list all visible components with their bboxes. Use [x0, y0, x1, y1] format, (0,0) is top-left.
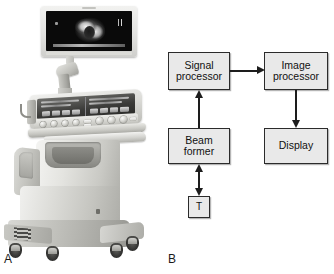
console-knob [40, 121, 46, 127]
panel-label-b: B [168, 252, 176, 266]
arrowhead-right-icon [257, 66, 265, 74]
cart-vent-grille [14, 227, 31, 240]
console-knob [120, 116, 127, 123]
panel-a-photograph [0, 0, 165, 274]
touch-panel-softkey [110, 107, 118, 112]
connector-image-to-display [295, 90, 297, 120]
touch-panel-softkey [90, 108, 98, 113]
block-signal-processor: Signalprocessor [168, 52, 230, 90]
block-beam-former: Beamformer [168, 128, 230, 164]
monitor-shell [41, 6, 137, 57]
block-label-line1: Image [281, 59, 310, 71]
touch-panel-softkey [72, 109, 80, 114]
block-transducer: T [188, 196, 210, 218]
screen-marker-left [55, 22, 58, 25]
touch-panel-softkey [42, 111, 50, 116]
touch-panel-softkey [52, 110, 60, 115]
arrowhead-down-icon [292, 120, 300, 128]
console-knob [62, 120, 68, 126]
figure-container: Signalprocessor Imageprocessor Beamforme… [0, 0, 334, 274]
panel-label-a: A [4, 252, 12, 266]
console-knob [108, 116, 115, 123]
connector-signal-to-image [230, 70, 258, 72]
arrowhead-up-icon [195, 164, 203, 172]
block-label-line1: Beam [185, 134, 212, 146]
touch-panel-line [89, 101, 122, 105]
cart-caster [46, 246, 59, 261]
touch-panel-line [41, 104, 71, 108]
monitor-screen [46, 11, 132, 51]
console-knob [51, 121, 57, 127]
ultrasound-machine-photo [0, 0, 165, 274]
connector-beam-to-signal [198, 98, 200, 128]
block-label-line1: Signal [184, 59, 213, 71]
block-label-line1: T [196, 201, 202, 213]
ultrasound-image-blob [73, 16, 107, 44]
cart-storage-bay-inner [52, 147, 94, 164]
cart-caster [110, 243, 123, 258]
console-key [84, 120, 91, 123]
cart-body-lower [20, 186, 120, 224]
probe-cable [20, 104, 31, 118]
block-image-processor: Imageprocessor [264, 52, 328, 90]
cart-side-recess [19, 151, 33, 179]
touch-panel-softkey [62, 110, 70, 115]
touch-panel-softkey [100, 108, 108, 113]
block-display: Display [264, 128, 328, 164]
touch-panel-softkey [120, 107, 129, 113]
block-label-line2: processor [176, 70, 222, 82]
block-label-line1: Display [279, 140, 313, 152]
cart-latch [96, 209, 100, 214]
panel-b-block-diagram: Signalprocessor Imageprocessor Beamforme… [165, 0, 334, 274]
block-label-line2: processor [273, 70, 319, 82]
touch-panel-line [41, 99, 79, 103]
console-key [130, 117, 136, 120]
arrowhead-down-icon [195, 188, 203, 196]
screen-marker-right [118, 19, 123, 26]
console-knob [96, 117, 103, 124]
screen-info-strip [53, 44, 125, 47]
block-label-line2: former [184, 145, 214, 157]
touch-panel-line [89, 97, 129, 101]
arrowhead-up-icon [195, 90, 203, 98]
cart-caster [126, 236, 139, 251]
monitor-brand-mark [82, 7, 96, 9]
monitor-bezel-chin [46, 52, 132, 55]
console-knob [73, 119, 79, 125]
touch-panel-divider [85, 97, 86, 116]
